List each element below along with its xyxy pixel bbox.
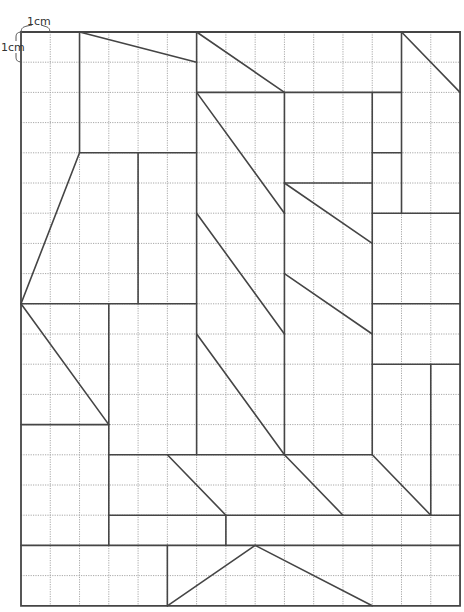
shape-edge: [167, 455, 226, 515]
grid-diagram: 1cm 1cm: [0, 0, 464, 612]
polygon-outlines: [21, 32, 460, 606]
scale-label-vertical: 1cm: [1, 41, 25, 54]
dotted-grid: [21, 32, 460, 606]
outer-border: [21, 32, 460, 606]
scale-label-horizontal: 1cm: [27, 15, 51, 28]
scale-annotation-horizontal: 1cm: [21, 15, 51, 33]
shape-edge: [21, 153, 80, 304]
shape-edge: [80, 32, 197, 62]
